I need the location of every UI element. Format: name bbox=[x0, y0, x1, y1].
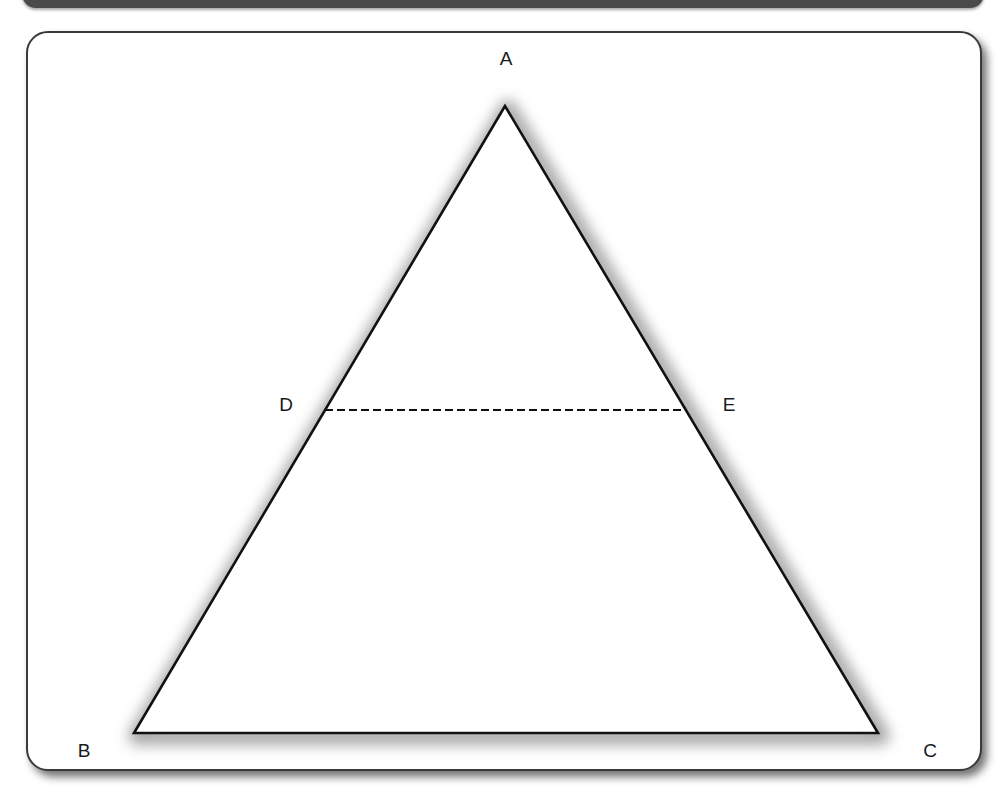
vertex-label-b: B bbox=[78, 740, 91, 761]
vertex-label-c: C bbox=[923, 740, 937, 761]
vertex-label-a: A bbox=[500, 48, 513, 69]
point-label-d: D bbox=[279, 394, 293, 415]
triangle-diagram: A B C D E bbox=[0, 0, 1002, 790]
point-label-e: E bbox=[723, 394, 736, 415]
triangle-abc bbox=[134, 106, 878, 733]
